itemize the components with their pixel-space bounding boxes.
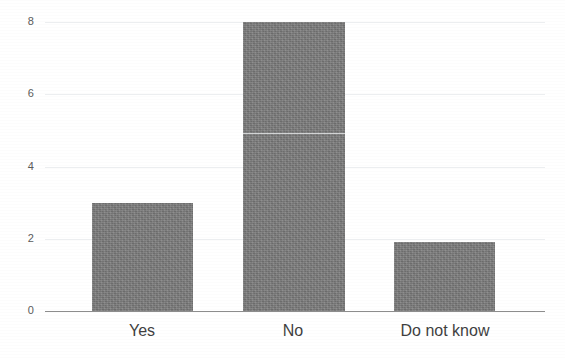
- x-axis-line: [45, 311, 545, 312]
- bar-chart: 8 6 4 2 0 Yes No Do not know: [0, 0, 565, 358]
- bar-do-not-know: [394, 242, 495, 311]
- gridline-bleed-5: [243, 133, 345, 134]
- y-tick-label-6: 6: [8, 87, 34, 99]
- y-tick-label-4: 4: [8, 160, 34, 172]
- x-tick-label-do-not-know: Do not know: [345, 322, 545, 340]
- y-tick-label-0: 0: [8, 304, 34, 316]
- plot-area: [45, 10, 545, 311]
- y-tick-label-8: 8: [8, 15, 34, 27]
- y-tick-label-2: 2: [8, 232, 34, 244]
- bar-no: [243, 22, 345, 311]
- bar-yes: [92, 203, 193, 311]
